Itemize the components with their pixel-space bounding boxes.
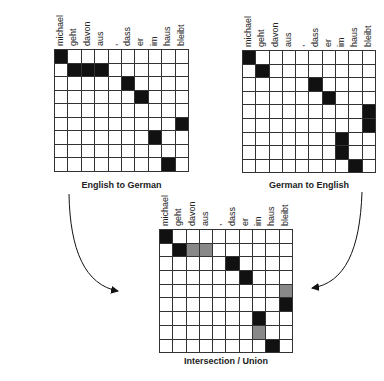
alignment-cell (226, 285, 239, 299)
alignment-cell (323, 78, 336, 92)
alignment-cell (240, 298, 253, 312)
alignment-cell (283, 133, 296, 147)
alignment-cell (213, 298, 226, 312)
alignment-cell-filled (363, 119, 376, 133)
alignment-cell-filled (280, 298, 293, 312)
alignment-cell (122, 64, 135, 78)
alignment-cell (243, 133, 256, 147)
alignment-cell (213, 244, 226, 258)
alignment-cell (135, 131, 148, 145)
alignment-cell-union (187, 244, 200, 258)
alignment-cell (82, 104, 95, 118)
alignment-cell (135, 104, 148, 118)
alignment-cell (200, 271, 213, 285)
column-label: geht (256, 29, 266, 47)
alignment-cell (95, 131, 108, 145)
alignment-cell (200, 326, 213, 340)
alignment-cell (176, 131, 189, 145)
alignment-cell (336, 78, 349, 92)
alignment-cell (135, 64, 148, 78)
alignment-cell (240, 230, 253, 244)
alignment-cell (173, 271, 186, 285)
column-label: dass (122, 27, 132, 46)
alignment-cell (187, 340, 200, 354)
alignment-cell (173, 230, 186, 244)
alignment-cell (243, 119, 256, 133)
alignment-cell (309, 119, 322, 133)
alignment-cell-filled (173, 244, 186, 258)
alignment-cell (109, 91, 122, 105)
alignment-cell (162, 50, 175, 64)
alignment-cell (296, 78, 309, 92)
alignment-cell-filled (135, 91, 148, 105)
alignment-cell (200, 298, 213, 312)
alignment-cell (336, 160, 349, 174)
alignment-cell (270, 119, 283, 133)
alignment-cell (283, 65, 296, 79)
alignment-cell (323, 160, 336, 174)
alignment-cell (240, 257, 253, 271)
alignment-cell (270, 133, 283, 147)
alignment-cell-filled (266, 340, 279, 354)
alignment-cell (68, 104, 81, 118)
column-label: geht (173, 208, 183, 226)
column-label: dass (227, 207, 237, 226)
alignment-cell (243, 146, 256, 160)
alignment-cell (173, 298, 186, 312)
alignment-cell (226, 271, 239, 285)
alignment-cell (68, 158, 81, 172)
alignment-cell-union (280, 285, 293, 299)
alignment-cell (187, 257, 200, 271)
alignment-cell (280, 271, 293, 285)
alignment-cell (55, 77, 68, 91)
alignment-cell (55, 145, 68, 159)
alignment-cell (55, 118, 68, 132)
alignment-cell (95, 77, 108, 91)
alignment-cell (68, 131, 81, 145)
alignment-cell (253, 230, 266, 244)
alignment-cell-filled (95, 64, 108, 78)
column-label: er (240, 218, 250, 226)
alignment-cell (323, 65, 336, 79)
alignment-cell (213, 230, 226, 244)
alignment-cell (266, 285, 279, 299)
alignment-cell-filled (240, 271, 253, 285)
alignment-grid (159, 229, 293, 353)
column-label: haus (349, 27, 359, 47)
alignment-cell (270, 146, 283, 160)
matrix-title: Intersection / Union (159, 356, 293, 366)
alignment-cell (226, 312, 239, 326)
alignment-cell (160, 312, 173, 326)
alignment-cell (213, 271, 226, 285)
alignment-cell (323, 119, 336, 133)
alignment-cell (176, 104, 189, 118)
alignment-cell (296, 119, 309, 133)
alignment-cell (243, 105, 256, 119)
alignment-cell (149, 104, 162, 118)
alignment-cell (173, 340, 186, 354)
alignment-cell (253, 285, 266, 299)
arrow-right-to-combined (312, 192, 362, 288)
alignment-cell (296, 133, 309, 147)
column-label: bleibt (280, 204, 290, 226)
alignment-cell (200, 340, 213, 354)
alignment-cell (283, 160, 296, 174)
alignment-cell (187, 326, 200, 340)
alignment-cell (270, 160, 283, 174)
alignment-cell (363, 78, 376, 92)
alignment-cell-filled (149, 131, 162, 145)
alignment-cell (109, 145, 122, 159)
alignment-cell (240, 312, 253, 326)
alignment-cell (296, 146, 309, 160)
alignment-cell (283, 51, 296, 65)
column-label: im (253, 217, 263, 227)
arrow-left-to-combined (69, 194, 118, 291)
column-label: aus (200, 211, 210, 226)
column-label: , (109, 43, 119, 46)
alignment-cell (226, 244, 239, 258)
alignment-cell (82, 91, 95, 105)
alignment-cell (122, 50, 135, 64)
alignment-cell (135, 118, 148, 132)
alignment-cell (309, 133, 322, 147)
alignment-cell (266, 230, 279, 244)
